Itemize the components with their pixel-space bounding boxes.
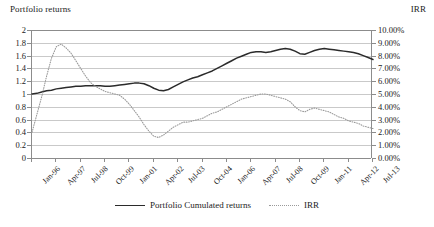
chart-container: Portfolio returns IRR 21.81.61.41.210.80… xyxy=(0,0,434,227)
y-axis-right-tick-label: 9.00% xyxy=(378,39,400,47)
x-axis-tick-label: Jul-13 xyxy=(382,165,402,185)
x-axis-tick-label: Oct-99 xyxy=(115,165,136,186)
x-axis-tick-label: Jul-98 xyxy=(90,165,110,185)
legend-item[interactable]: Portfolio Cumulated returns xyxy=(115,200,251,210)
y-axis-right-tick-label: 2.00% xyxy=(378,128,400,136)
y-axis-right-tick-label: 5.00% xyxy=(378,90,400,98)
y-axis-right-tick-label: 7.00% xyxy=(378,64,400,72)
y-axis-left-tick-label: 1.6 xyxy=(0,52,26,60)
y-axis-left-tick-label: 2 xyxy=(0,26,26,34)
legend-swatch-icon xyxy=(115,205,145,206)
x-axis-tick-label: Oct-09 xyxy=(309,165,330,186)
y-axis-right-tick-label: 3.00% xyxy=(378,116,400,124)
y-axis-left-tick-label: 1.2 xyxy=(0,77,26,85)
legend-label: IRR xyxy=(304,200,319,210)
plot-frame xyxy=(31,30,372,158)
y-axis-left-tick-label: 0.8 xyxy=(0,103,26,111)
chart-legend: Portfolio Cumulated returnsIRR xyxy=(0,200,434,210)
x-axis-tick-label: Jan-06 xyxy=(236,165,257,186)
gridline xyxy=(32,158,371,159)
y-axis-left-tick-label: 0.2 xyxy=(0,141,26,149)
y-axis-left-tick-label: 0.6 xyxy=(0,116,26,124)
legend-item[interactable]: IRR xyxy=(269,200,319,210)
series-lines xyxy=(32,30,373,158)
y-axis-right-tick-label: 10.00% xyxy=(378,26,404,34)
x-axis-tick-label: Apr-97 xyxy=(66,165,88,187)
left-axis-title: Portfolio returns xyxy=(10,4,71,14)
x-axis-tick-label: Jan-11 xyxy=(333,165,354,186)
y-axis-left-tick-label: 1.4 xyxy=(0,64,26,72)
y-axis-left-tick-label: 1 xyxy=(0,90,26,98)
x-axis-tick-label: Apr-12 xyxy=(358,165,380,187)
y-axis-right-tick-label: 0.00% xyxy=(378,154,400,162)
x-axis-tick-label: Jan-01 xyxy=(139,165,160,186)
y-axis-left-tick-label: 0 xyxy=(0,154,26,162)
y-axis-right-tick-label: 6.00% xyxy=(378,77,400,85)
y-axis-right-tick-label: 4.00% xyxy=(378,103,400,111)
series-line xyxy=(32,44,373,137)
x-axis-tick-label: Apr-02 xyxy=(164,165,186,187)
x-axis-tick-label: Apr-07 xyxy=(261,165,283,187)
y-axis-left-tick-label: 0.4 xyxy=(0,128,26,136)
plot-area xyxy=(32,30,371,158)
x-axis-tick-label: Jan-96 xyxy=(41,165,62,186)
x-axis-tick-label: Jul-03 xyxy=(187,165,207,185)
x-axis-tick-mark xyxy=(372,158,373,162)
legend-label: Portfolio Cumulated returns xyxy=(150,200,251,210)
x-axis-tick-label: Oct-04 xyxy=(212,165,233,186)
y-axis-right-tick-label: 8.00% xyxy=(378,52,400,60)
x-axis-tick-label: Jul-08 xyxy=(284,165,304,185)
y-axis-left-tick-label: 1.8 xyxy=(0,39,26,47)
right-axis-title: IRR xyxy=(411,4,426,14)
legend-swatch-icon xyxy=(269,205,299,206)
y-axis-right-tick-label: 1.00% xyxy=(378,141,400,149)
